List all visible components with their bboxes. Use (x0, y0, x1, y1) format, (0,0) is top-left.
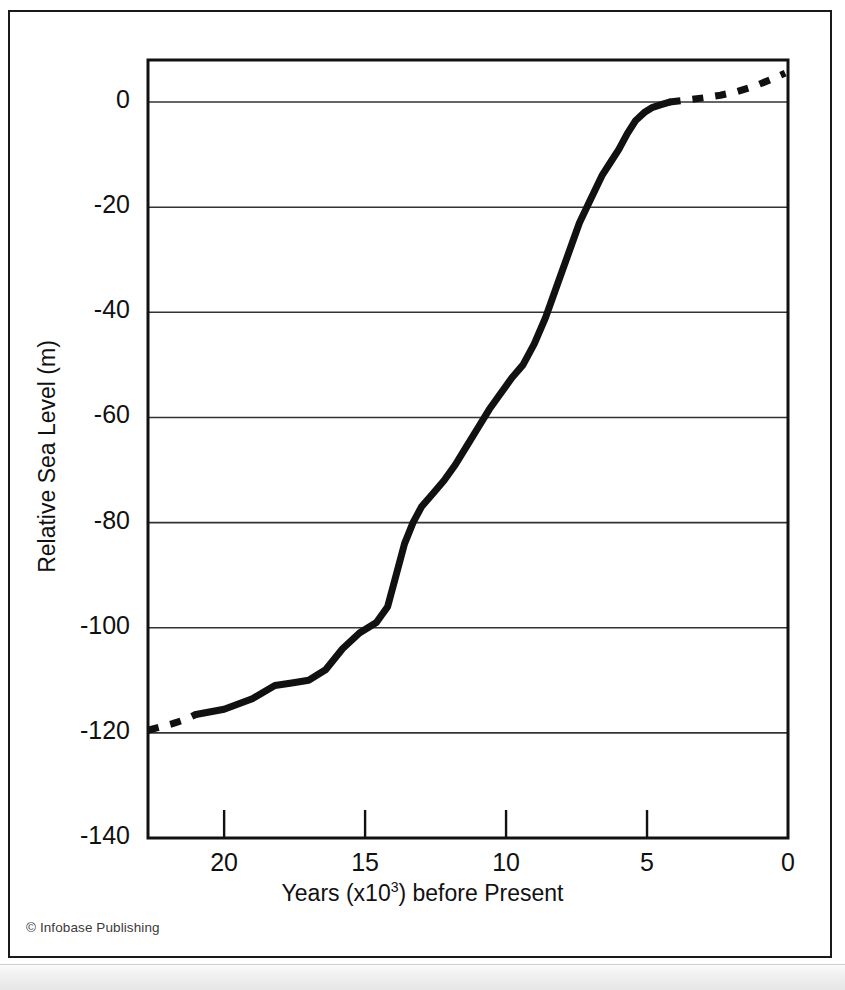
page-edge-shading (0, 962, 845, 990)
page-edge-rule (0, 964, 845, 965)
x-tick-label: 20 (184, 848, 264, 877)
x-tick-label: 10 (466, 848, 546, 877)
x-tick-label: 0 (748, 848, 828, 877)
copyright-notice: © Infobase Publishing (26, 920, 160, 935)
x-axis-title-suffix: ) before Present (398, 880, 563, 906)
y-tick-label: -120 (20, 716, 130, 745)
figure-page: 0-20-40-60-80-100-120-140 20151050 Relat… (0, 0, 845, 990)
y-axis-title: Relative Sea Level (m) (34, 197, 61, 717)
x-tick-label: 15 (325, 848, 405, 877)
x-tick-label: 5 (607, 848, 687, 877)
y-tick-label: 0 (20, 85, 130, 114)
y-tick-label: -140 (20, 821, 130, 850)
x-axis-title-prefix: Years (x10 (282, 880, 391, 906)
x-axis-title: Years (x103) before Present (0, 880, 845, 907)
